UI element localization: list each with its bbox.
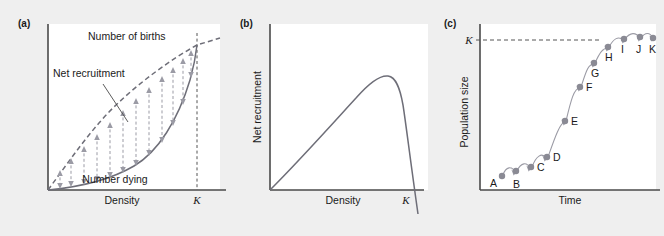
panel-a-plot-background xyxy=(48,24,220,190)
panel-a-births-label: Number of births xyxy=(88,30,166,42)
panel-c-x-axis-label: Time xyxy=(559,194,582,206)
panel-c-point-a[interactable] xyxy=(499,173,505,179)
panel-a-dying-label: Number dying xyxy=(82,173,148,185)
panel-c-point-label-a: A xyxy=(490,177,497,189)
panel-a-net-recruitment-label: Net recruitment xyxy=(53,67,125,79)
panel-b-y-axis-label: Net recruitment xyxy=(251,71,263,143)
panel-b-label: (b) xyxy=(240,18,253,29)
panel-c-label: (c) xyxy=(444,18,456,29)
panel-c: A B C D E F G H I J K Time Population si… xyxy=(428,0,664,236)
panel-b: Density K Net recruitment (b) xyxy=(228,0,428,236)
panel-b-plot: Density K Net recruitment xyxy=(228,0,428,236)
panel-a: Number of births Net recruitment Number … xyxy=(0,0,228,236)
panel-c-point-label-h: H xyxy=(605,51,613,63)
panel-c-point-e[interactable] xyxy=(562,118,568,124)
figure-container: Number of births Net recruitment Number … xyxy=(0,0,664,236)
panel-c-point-h[interactable] xyxy=(605,44,611,50)
panel-c-point-b[interactable] xyxy=(513,168,519,174)
panel-c-plot: A B C D E F G H I J K Time Population si… xyxy=(428,0,664,236)
panel-b-x-tick-label: K xyxy=(401,194,410,206)
panel-c-point-f[interactable] xyxy=(577,84,583,90)
panel-c-y-axis-label: Population size xyxy=(458,76,470,147)
panel-c-point-g[interactable] xyxy=(591,60,597,66)
panel-a-x-tick-label: K xyxy=(192,194,201,206)
panel-c-point-label-b: B xyxy=(513,178,520,190)
panel-c-point-label-f: F xyxy=(586,81,592,93)
panel-c-y-tick-label: K xyxy=(464,34,473,46)
panel-c-point-c[interactable] xyxy=(528,164,534,170)
panel-c-point-label-e: E xyxy=(571,115,578,127)
panel-c-point-k[interactable] xyxy=(650,35,656,41)
panel-c-point-label-j: J xyxy=(636,43,641,55)
panel-c-point-i[interactable] xyxy=(621,36,627,42)
panel-c-point-label-g: G xyxy=(591,67,599,79)
panel-c-point-label-c: C xyxy=(537,161,545,173)
panel-b-x-axis-label: Density xyxy=(325,194,361,206)
panel-a-plot: Number of births Net recruitment Number … xyxy=(0,0,228,236)
panel-a-x-axis-label: Density xyxy=(104,194,140,206)
panel-a-label: (a) xyxy=(18,18,30,29)
panel-c-point-label-d: D xyxy=(553,151,561,163)
panel-c-plot-background xyxy=(480,24,656,190)
panel-c-point-label-k: K xyxy=(649,43,656,55)
panel-c-point-label-i: I xyxy=(621,43,624,55)
panel-c-point-j[interactable] xyxy=(637,34,643,40)
panel-c-point-d[interactable] xyxy=(544,154,550,160)
